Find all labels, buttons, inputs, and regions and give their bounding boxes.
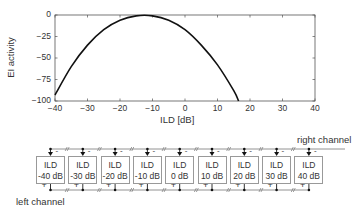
ild-unit-box: ILD0 dB [165, 156, 194, 184]
x-tick-label: 0 [173, 103, 197, 113]
svg-text:-: - [185, 146, 188, 155]
ild-unit-title: ILD [134, 160, 161, 171]
y-tick-label: −25 [21, 31, 51, 41]
ild-unit-title: ILD [199, 160, 226, 171]
x-tick-label: −20 [108, 103, 132, 113]
svg-text:-: - [314, 146, 317, 155]
x-tick-label: −30 [76, 103, 100, 113]
ild-unit-value: 0 dB [166, 171, 193, 182]
ild-unit-value: -20 dB [102, 171, 129, 182]
ild-unit-value: -30 dB [69, 171, 96, 182]
x-axis-label: ILD [dB] [160, 114, 194, 125]
ild-unit-value: -10 dB [134, 171, 161, 182]
left-channel-label: left channel [16, 196, 65, 207]
right-channel-label: right channel [297, 134, 351, 145]
y-tick-label: −50 [21, 52, 51, 62]
ild-unit-box: ILD-20 dB [101, 156, 130, 184]
ild-unit-box: ILD-10 dB [133, 156, 162, 184]
x-tick-label: 10 [206, 103, 230, 113]
ild-unit-title: ILD [295, 160, 322, 171]
ild-unit-title: ILD [69, 160, 96, 171]
x-tick-label: 30 [271, 103, 295, 113]
x-tick-label: −10 [141, 103, 165, 113]
svg-text:-: - [217, 146, 220, 155]
y-axis-label: EI activity [5, 37, 16, 78]
ild-unit-box: ILD40 dB [294, 156, 323, 184]
ild-unit-title: ILD [231, 160, 258, 171]
svg-text:-: - [120, 146, 123, 155]
svg-text:-: - [152, 146, 155, 155]
ild-unit-title: ILD [37, 160, 64, 171]
ild-unit-value: 40 dB [295, 171, 322, 182]
svg-text:-: - [282, 146, 285, 155]
svg-text:-: - [249, 146, 252, 155]
svg-text:-: - [56, 146, 59, 155]
ild-unit-box: ILD10 dB [198, 156, 227, 184]
x-tick-label: −40 [43, 103, 67, 113]
y-tick-label: 0 [21, 9, 51, 19]
ild-unit-value: 30 dB [263, 171, 290, 182]
svg-text:-: - [88, 146, 91, 155]
ild-unit-title: ILD [166, 160, 193, 171]
ild-unit-box: ILD20 dB [230, 156, 259, 184]
ild-unit-title: ILD [263, 160, 290, 171]
ild-unit-value: -40 dB [37, 171, 64, 182]
ild-unit-box: ILD-30 dB [68, 156, 97, 184]
y-tick-label: −75 [21, 74, 51, 84]
ild-unit-value: 10 dB [199, 171, 226, 182]
x-tick-label: 40 [303, 103, 327, 113]
ild-unit-box: ILD-40 dB [36, 156, 65, 184]
ild-unit-value: 20 dB [231, 171, 258, 182]
x-tick-label: 20 [238, 103, 262, 113]
ild-unit-box: ILD30 dB [262, 156, 291, 184]
ild-unit-title: ILD [102, 160, 129, 171]
